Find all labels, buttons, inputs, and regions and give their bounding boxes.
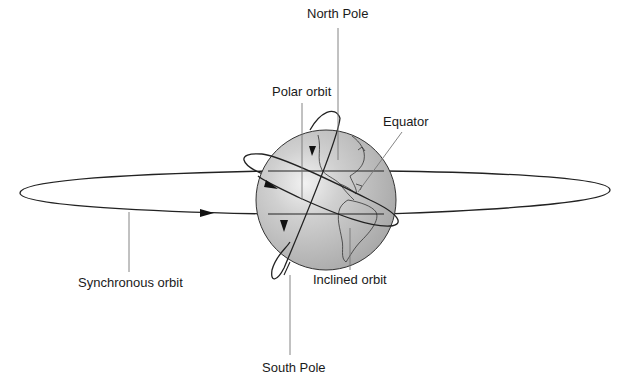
polar-orbit-label: Polar orbit bbox=[272, 84, 331, 99]
orbit-diagram bbox=[0, 0, 625, 385]
north-pole-label: North Pole bbox=[307, 6, 368, 21]
synchronous-orbit-label: Synchronous orbit bbox=[78, 275, 183, 290]
polar-orbit-back bbox=[310, 111, 340, 130]
equator-label: Equator bbox=[383, 114, 429, 129]
inclined-orbit-label: Inclined orbit bbox=[313, 272, 387, 287]
south-pole-label: South Pole bbox=[262, 360, 326, 375]
orbit-direction-arrow-icon bbox=[200, 209, 214, 217]
earth-globe bbox=[256, 130, 396, 270]
